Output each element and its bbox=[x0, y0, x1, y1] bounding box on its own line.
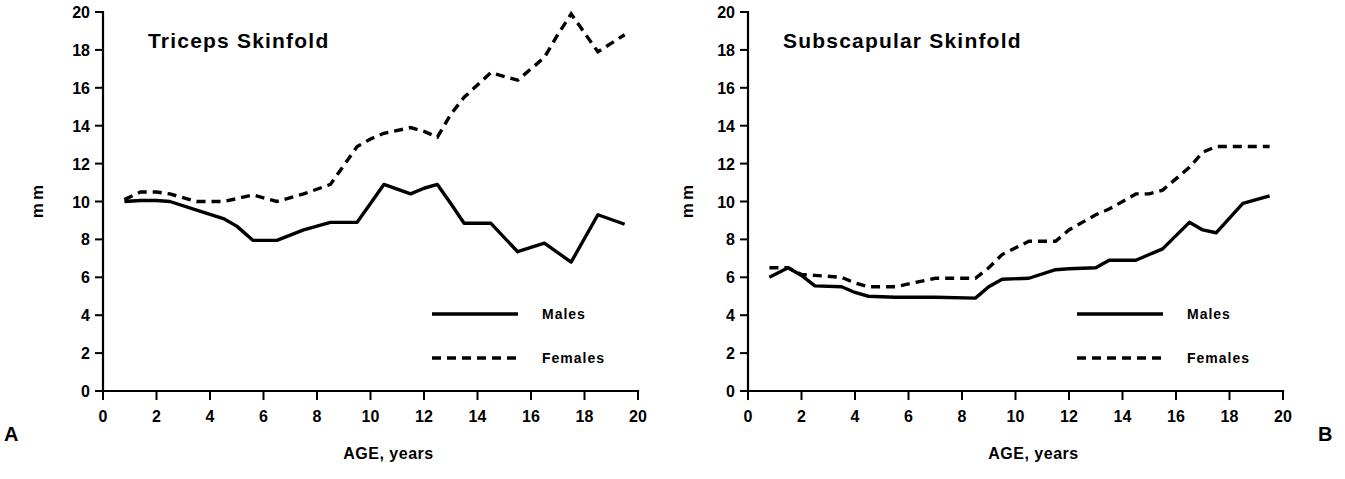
x-tick-label: 20 bbox=[629, 408, 647, 425]
y-tick-label: 10 bbox=[717, 194, 735, 211]
y-tick-label: 2 bbox=[81, 345, 90, 362]
y-tick-label: 2 bbox=[726, 345, 735, 362]
y-tick-label: 16 bbox=[72, 80, 90, 97]
x-axis-title: AGE, years bbox=[343, 445, 433, 462]
series-line-females bbox=[769, 147, 1269, 287]
chart-title: Triceps Skinfold bbox=[148, 29, 329, 52]
y-tick-label: 14 bbox=[717, 118, 735, 135]
x-tick-label: 4 bbox=[851, 408, 860, 425]
y-axis-title: mm bbox=[28, 182, 47, 218]
y-tick-label: 4 bbox=[81, 307, 90, 324]
chart-axes bbox=[748, 12, 1283, 391]
legend-label-males: Males bbox=[1187, 306, 1231, 322]
y-tick-label: 0 bbox=[726, 383, 735, 400]
chart-title: Subscapular Skinfold bbox=[783, 29, 1022, 52]
x-tick-label: 14 bbox=[469, 408, 487, 425]
panel-label-a: A bbox=[4, 424, 18, 444]
y-tick-label: 6 bbox=[726, 269, 735, 286]
x-tick-label: 2 bbox=[797, 408, 806, 425]
panel-b-subscapular-skinfold: 0246810121416182002468101214161820AGE, y… bbox=[673, 0, 1345, 479]
x-tick-label: 0 bbox=[99, 408, 108, 425]
legend-label-females: Females bbox=[542, 350, 605, 366]
x-tick-label: 8 bbox=[958, 408, 967, 425]
y-tick-label: 6 bbox=[81, 269, 90, 286]
x-tick-label: 18 bbox=[1221, 408, 1239, 425]
series-line-males bbox=[769, 196, 1269, 298]
x-tick-label: 10 bbox=[1007, 408, 1025, 425]
x-tick-label: 6 bbox=[259, 408, 268, 425]
y-tick-label: 8 bbox=[726, 231, 735, 248]
x-tick-label: 16 bbox=[522, 408, 540, 425]
x-tick-label: 10 bbox=[362, 408, 380, 425]
x-tick-label: 14 bbox=[1114, 408, 1132, 425]
y-tick-label: 18 bbox=[72, 42, 90, 59]
panel-label-b: B bbox=[1318, 424, 1332, 444]
y-axis-title: mm bbox=[678, 182, 697, 218]
panel-a-triceps-skinfold: 0246810121416182002468101214161820AGE, y… bbox=[0, 0, 672, 479]
x-tick-label: 12 bbox=[415, 408, 433, 425]
y-tick-label: 20 bbox=[72, 4, 90, 21]
x-tick-label: 20 bbox=[1274, 408, 1292, 425]
x-axis-title: AGE, years bbox=[988, 445, 1078, 462]
x-tick-label: 8 bbox=[313, 408, 322, 425]
y-tick-label: 4 bbox=[726, 307, 735, 324]
y-tick-label: 8 bbox=[81, 231, 90, 248]
x-tick-label: 6 bbox=[904, 408, 913, 425]
y-tick-label: 12 bbox=[72, 156, 90, 173]
x-tick-label: 12 bbox=[1060, 408, 1078, 425]
x-tick-label: 4 bbox=[206, 408, 215, 425]
series-line-males bbox=[124, 184, 624, 262]
y-tick-label: 10 bbox=[72, 194, 90, 211]
y-tick-label: 0 bbox=[81, 383, 90, 400]
chart-b-svg: 0246810121416182002468101214161820AGE, y… bbox=[673, 0, 1345, 479]
x-tick-label: 2 bbox=[152, 408, 161, 425]
legend-label-males: Males bbox=[542, 306, 586, 322]
y-tick-label: 18 bbox=[717, 42, 735, 59]
y-tick-label: 20 bbox=[717, 4, 735, 21]
x-tick-label: 18 bbox=[576, 408, 594, 425]
y-tick-label: 12 bbox=[717, 156, 735, 173]
y-tick-label: 14 bbox=[72, 118, 90, 135]
chart-a-svg: 0246810121416182002468101214161820AGE, y… bbox=[0, 0, 672, 479]
x-tick-label: 16 bbox=[1167, 408, 1185, 425]
figure-container: 0246810121416182002468101214161820AGE, y… bbox=[0, 0, 1345, 479]
y-tick-label: 16 bbox=[717, 80, 735, 97]
x-tick-label: 0 bbox=[744, 408, 753, 425]
legend-label-females: Females bbox=[1187, 350, 1250, 366]
